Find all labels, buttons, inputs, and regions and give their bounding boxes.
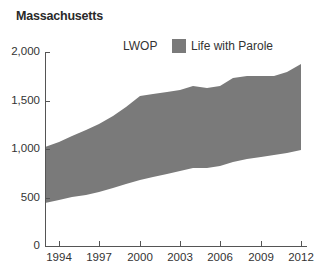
x-tick-label: 1994 (39, 251, 79, 263)
x-tick-label: 2009 (241, 251, 281, 263)
y-tick-label: 500 (0, 191, 40, 203)
y-tick-label: 1,000 (0, 142, 40, 154)
x-tick-label: 1997 (79, 251, 119, 263)
chart-plot (0, 0, 331, 279)
x-tick-label: 2003 (160, 251, 200, 263)
life-with-parole-area (45, 64, 301, 203)
x-tick-marks (60, 241, 302, 246)
x-tick-label: 2006 (200, 251, 240, 263)
y-tick-label: 1,500 (0, 94, 40, 106)
y-tick-label: 0 (0, 239, 40, 251)
x-tick-label: 2012 (281, 251, 321, 263)
y-tick-label: 2,000 (0, 45, 40, 57)
x-tick-label: 2000 (120, 251, 160, 263)
